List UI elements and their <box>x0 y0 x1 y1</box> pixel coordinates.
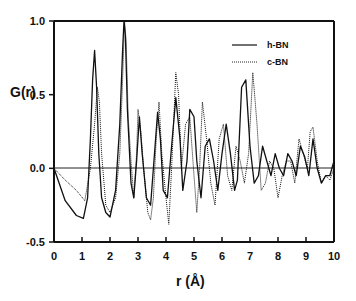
y-tick-label: 0.0 <box>30 162 45 174</box>
x-tick-label: 0 <box>51 250 57 262</box>
x-axis-ticks: 012345678910 <box>51 237 340 262</box>
plot-frame <box>54 21 334 242</box>
x-tick-label: 8 <box>275 250 281 262</box>
legend-label-h-bn: h-BN <box>267 40 289 50</box>
y-axis-title: G(r) <box>10 84 36 100</box>
x-tick-label: 1 <box>79 250 85 262</box>
x-tick-label: 4 <box>163 250 170 262</box>
legend-label-c-bn: c-BN <box>267 57 288 67</box>
x-tick-label: 7 <box>247 250 253 262</box>
x-tick-label: 9 <box>303 250 309 262</box>
series-lines <box>54 21 334 224</box>
x-tick-label: 3 <box>135 250 141 262</box>
y-tick-label: 1.0 <box>30 15 45 27</box>
x-tick-label: 5 <box>191 250 197 262</box>
legend: h-BN c-BN <box>232 40 289 67</box>
x-tick-label: 2 <box>107 250 113 262</box>
y-axis-ticks: 1.00.50.0-0.5 <box>26 15 54 248</box>
series-line-h-bn <box>54 21 334 218</box>
x-axis-title: r (Å) <box>176 273 205 289</box>
x-tick-label: 6 <box>219 250 225 262</box>
y-tick-label: -0.5 <box>26 236 45 248</box>
x-tick-label: 10 <box>328 250 340 262</box>
chart: 012345678910 1.00.50.0-0.5 G(r) r (Å) h-… <box>0 0 356 301</box>
